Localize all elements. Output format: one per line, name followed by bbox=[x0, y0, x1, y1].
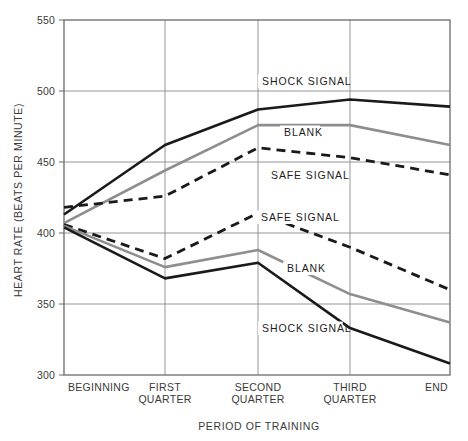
y-tick-label: 400 bbox=[37, 227, 55, 239]
y-axis-title: HEART RATE (BEATS PER MINUTE) bbox=[12, 103, 24, 297]
series-label-upper-shock-signal: SHOCK SIGNAL bbox=[262, 75, 352, 87]
x-category-label-1: QUARTER bbox=[138, 393, 191, 405]
series-label-upper-blank: BLANK bbox=[284, 126, 323, 138]
y-tick-label: 450 bbox=[37, 156, 55, 168]
x-category-label-3: QUARTER bbox=[323, 393, 376, 405]
x-category-label-4: END bbox=[425, 381, 448, 393]
x-category-label-2: SECOND bbox=[235, 381, 282, 393]
x-category-label-3: THIRD bbox=[333, 381, 367, 393]
chart-container: 300350400450500550 SHOCK SIGNALBLANKSAFE… bbox=[0, 0, 468, 441]
x-axis-title: PERIOD OF TRAINING bbox=[198, 420, 319, 432]
heart-rate-line-chart: 300350400450500550 SHOCK SIGNALBLANKSAFE… bbox=[0, 0, 468, 441]
y-tick-label: 500 bbox=[37, 85, 55, 97]
series-label-lower-safe-signal: SAFE SIGNAL bbox=[261, 211, 340, 223]
y-tick-label: 350 bbox=[37, 298, 55, 310]
y-tick-label: 550 bbox=[37, 14, 55, 26]
series-label-upper-safe-signal: SAFE SIGNAL bbox=[271, 169, 350, 181]
y-tick-label: 300 bbox=[37, 369, 55, 381]
x-category-label-2: QUARTER bbox=[231, 393, 284, 405]
x-category-label-1: FIRST bbox=[149, 381, 181, 393]
series-label-lower-shock-signal: SHOCK SIGNAL bbox=[262, 322, 352, 334]
series-label-lower-blank: BLANK bbox=[287, 262, 326, 274]
x-category-label-0: BEGINNING bbox=[68, 381, 130, 393]
